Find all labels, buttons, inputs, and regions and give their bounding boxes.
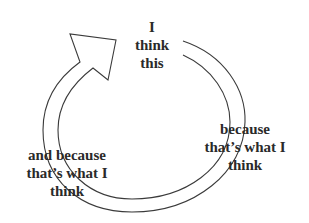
- label-because-thats-what-i-think: because that’s what I think: [193, 120, 297, 174]
- label-i-think-this: I think this: [122, 18, 182, 72]
- label-and-because-thats-what-i-think: and because that’s what I think: [12, 146, 122, 200]
